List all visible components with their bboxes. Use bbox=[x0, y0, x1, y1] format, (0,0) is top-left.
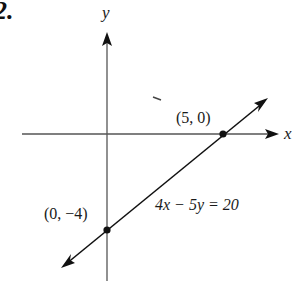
graph-canvas bbox=[0, 0, 298, 281]
point-5-0 bbox=[219, 130, 226, 137]
point-label-5-0: (5, 0) bbox=[176, 110, 211, 126]
graph-line bbox=[66, 102, 264, 264]
x-axis-label: x bbox=[284, 125, 292, 142]
equation-label: 4x − 5y = 20 bbox=[155, 197, 239, 213]
scan-artifact bbox=[153, 97, 161, 100]
point-0-neg4 bbox=[103, 226, 110, 233]
line-arrow-lower-icon bbox=[61, 254, 75, 268]
point-label-0-neg4: (0, −4) bbox=[44, 206, 88, 222]
y-axis-label: y bbox=[102, 4, 110, 21]
graph-figure: 2. y x (5, 0) (0, −4) 4x − 5y = 20 bbox=[0, 0, 298, 281]
line-arrow-upper-icon bbox=[254, 98, 268, 112]
